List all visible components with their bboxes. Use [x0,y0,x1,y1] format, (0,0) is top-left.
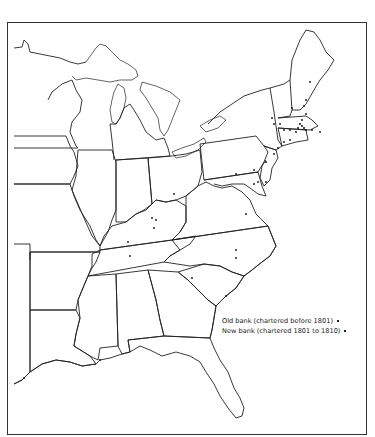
map-legend: Old bank (chartered before 1801) New ban… [222,316,346,336]
bank-marker [155,219,157,221]
bank-marker [127,241,129,243]
legend-label-old-bank: Old bank (chartered before 1801) [222,317,333,325]
bank-marker [235,249,237,251]
bank-marker [297,127,299,129]
bank-marker [303,105,305,107]
state-louisiana [30,310,96,372]
legend-item-old-bank: Old bank (chartered before 1801) [222,316,346,326]
bank-marker [309,81,311,83]
bank-marker [235,173,237,175]
bank-marker [271,117,273,119]
bank-marker [291,107,293,109]
state-new-york [208,88,282,150]
state-texas-oklahoma [14,244,30,384]
bank-marker [301,119,303,121]
bank-marker [289,129,291,131]
state-tennessee [88,236,196,276]
bank-marker [295,131,297,133]
state-connecticut-ri [278,128,308,146]
bank-marker [257,181,259,183]
state-wisconsin [14,80,82,148]
bank-marker [273,153,275,155]
state-south-carolina [178,264,244,306]
state-maryland-delaware [204,172,266,196]
legend-label-new-bank: New bank (chartered 1801 to 1810) [222,327,340,335]
state-ohio [148,150,202,204]
bank-marker [129,255,131,257]
bank-marker [99,359,101,361]
eastern-us-map [0,0,375,437]
state-florida [128,336,244,418]
state-alabama [116,270,164,354]
bank-marker [277,147,279,149]
bank-marker [253,183,255,185]
bank-marker [305,129,307,131]
state-missouri [14,184,100,260]
state-indiana [116,158,152,222]
state-new-jersey [260,146,278,186]
state-illinois [72,150,116,246]
lake-michigan [110,84,126,124]
state-arkansas [30,252,100,310]
bank-marker [301,125,303,127]
bank-marker [225,295,227,297]
bank-marker [279,123,281,125]
state-georgia [148,270,216,338]
bank-marker [173,193,175,195]
bank-marker [23,377,25,379]
bank-marker [191,277,193,279]
bank-marker [245,213,247,215]
state-iowa [14,136,78,184]
bank-marker [283,129,285,131]
gulf-coast [14,352,130,384]
legend-item-new-bank: New bank (chartered 1801 to 1810) [222,326,346,336]
bank-marker [235,257,237,259]
new-bank-marker-icon [344,330,346,332]
northern-border [14,40,86,64]
bank-marker [283,141,285,143]
bank-marker [265,161,267,163]
state-mississippi [74,274,118,360]
bank-marker [319,131,321,133]
state-maine [290,30,334,110]
bank-marker [273,123,275,125]
bank-marker [253,169,255,171]
bank-marker [303,127,305,129]
state-vermont-nh [270,80,292,118]
state-pennsylvania [200,136,268,180]
lake-huron [140,82,180,136]
bank-marker [299,123,301,125]
bank-marker [153,227,155,229]
bank-marker [289,139,291,141]
state-kentucky [100,200,186,250]
bank-marker [151,217,153,219]
bank-marker [305,99,307,101]
state-north-carolina [164,226,276,276]
old-bank-marker-icon [337,320,339,322]
bank-marker [311,129,313,131]
bank-marker [305,113,307,115]
bank-marker [265,181,267,183]
